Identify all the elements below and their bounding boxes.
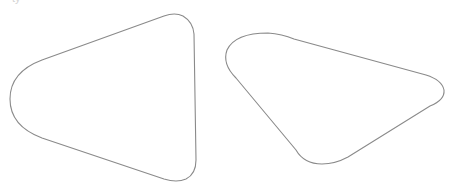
rounded-triangle-left — [10, 14, 196, 181]
rounded-triangle-right — [226, 33, 444, 164]
shapes-canvas — [0, 0, 458, 189]
